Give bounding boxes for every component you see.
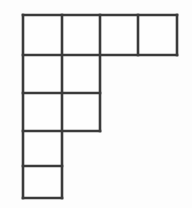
grid-cell-r5c1 [23,166,62,198]
grid-cell-r4c1 [23,131,62,166]
grid-cell-r1c3 [100,15,138,55]
figure-canvas [0,0,192,208]
grid-cell-r1c1 [23,15,62,55]
grid-cell-r3c1 [23,93,62,131]
grid-cell-r1c2 [62,15,100,55]
polyomino-figure [0,0,192,208]
grid-cell-r3c2 [62,93,100,131]
grid-cell-r1c4 [138,15,177,55]
grid-cell-r2c1 [23,55,62,93]
grid-cell-r2c2 [62,55,100,93]
